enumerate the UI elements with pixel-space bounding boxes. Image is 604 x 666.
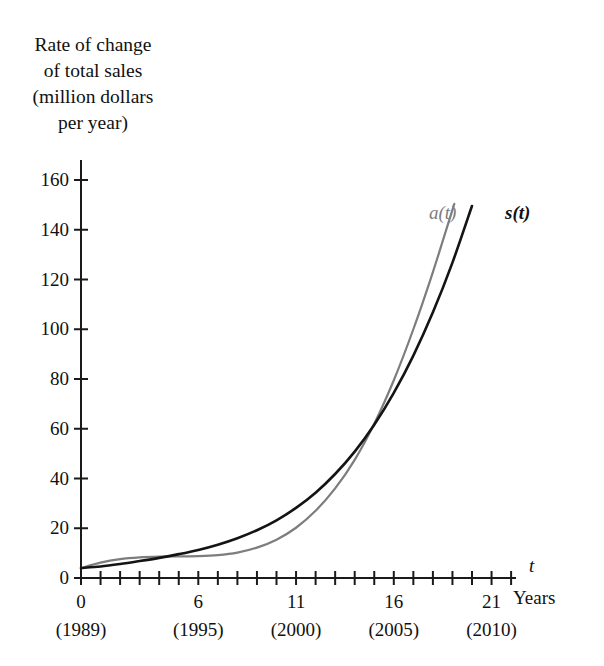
y-tick-label: 60 [11,419,69,438]
y-tick-label: 120 [11,270,69,289]
y-tick-label: 20 [11,518,69,537]
x-axis-variable-label: t [529,556,534,575]
y-tick-label: 100 [11,319,69,338]
x-tick-label: 16 [359,592,429,611]
x-tick-year-label: (1995) [153,620,243,639]
curve-s-of-t [81,206,472,568]
x-tick-label: 11 [261,592,331,611]
x-tick-year-label: (2010) [447,620,537,639]
curve-group [81,204,472,568]
figure-canvas: Rate of change of total sales (million d… [0,0,604,666]
curve-label-s: s(t) [505,203,530,222]
y-tick-label: 160 [11,170,69,189]
x-tick-label: 0 [46,592,116,611]
x-tick-year-label: (1989) [36,620,126,639]
x-tick-year-label: (2005) [349,620,439,639]
x-tick-year-label: (2000) [251,620,341,639]
curve-label-a: a(t) [429,203,456,222]
y-tick-label: 80 [11,369,69,388]
y-tick-label: 140 [11,220,69,239]
plot-area [0,0,604,666]
y-tick-label: 0 [11,568,69,587]
x-axis-units-label: Years [513,588,555,607]
y-tick-label: 40 [11,469,69,488]
x-tick-label: 6 [163,592,233,611]
